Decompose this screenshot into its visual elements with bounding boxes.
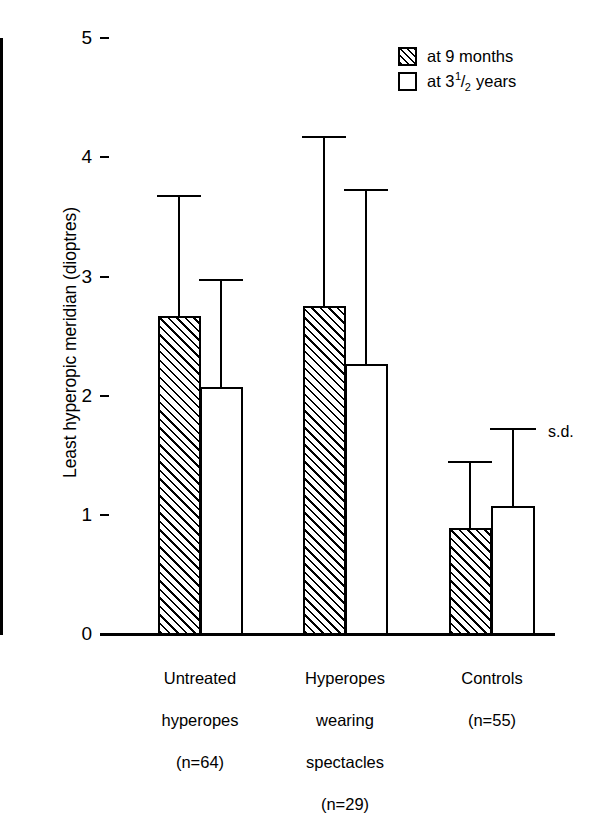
error-bar-stem-spectacles-3half-years [365,189,367,365]
y-tick-label-3: 3 [52,267,92,286]
y-tick-mark-4 [100,156,109,158]
group-label-controls: Controls (n=55) [412,647,572,752]
error-bar-cap-spectacles-9months [302,136,346,138]
sd-annotation-label: s.d. [548,423,574,441]
group-label-line: (n=29) [265,794,425,815]
group-label-line: Controls [412,668,572,689]
group-label-line: Untreated [120,668,280,689]
error-bar-cap-controls-9months [448,461,492,463]
legend-swatch-hatched-icon [398,47,417,66]
bar-spectacles-9months [303,306,346,635]
y-tick-mark-1 [100,514,109,516]
error-bar-stem-untreated-9months [178,195,180,317]
legend: at 9 months at 31/2 years [398,44,516,94]
error-bar-cap-untreated-9months [157,195,201,197]
legend-label-at-3-half-years: at 31/2 years [427,70,516,93]
y-tick-label-1: 1 [52,505,92,524]
error-bar-stem-controls-9months [469,461,471,529]
bar-controls-3half-years [491,506,535,635]
y-tick-label-5: 5 [52,28,92,47]
legend-label-suffix: years [471,72,516,90]
y-tick-mark-5 [100,37,109,39]
error-bar-stem-controls-3half-years [512,428,514,507]
bar-controls-9months [449,528,492,635]
group-label-line: spectacles [265,752,425,773]
bar-untreated-3half-years [200,387,243,635]
group-label-line: (n=55) [412,710,572,731]
y-tick-label-2: 2 [52,386,92,405]
y-axis-line [0,38,3,635]
error-bar-stem-spectacles-9months [323,136,325,307]
group-label-hyperopes-wearing-spectacles: Hyperopes wearing spectacles (n=29) [265,647,425,817]
legend-label-fraction: 1/2 [455,70,472,93]
legend-label-prefix: at 3 [427,72,455,90]
y-tick-label-0: 0 [52,624,92,643]
fraction-denominator: 2 [465,81,471,93]
legend-label-at-9-months: at 9 months [427,47,513,66]
fraction-numerator: 1 [455,70,461,82]
error-bar-cap-controls-3half-years [490,428,536,430]
bar-untreated-9months [158,316,201,635]
error-bar-cap-untreated-3half-years [199,279,243,281]
group-label-line: wearing [265,710,425,731]
error-bar-stem-untreated-3half-years [220,279,222,388]
y-tick-label-4: 4 [52,147,92,166]
legend-swatch-white-icon [398,72,417,91]
group-label-line: hyperopes [120,710,280,731]
group-label-line: Hyperopes [265,668,425,689]
group-label-untreated-hyperopes: Untreated hyperopes (n=64) [120,647,280,794]
y-tick-mark-2 [100,395,109,397]
legend-item-at-9-months: at 9 months [398,44,516,69]
legend-item-at-3-half-years: at 31/2 years [398,69,516,94]
y-axis-title: Least hyperopic meridian (dioptres) [60,133,81,553]
error-bar-cap-spectacles-3half-years [344,189,388,191]
y-tick-mark-3 [100,276,109,278]
bar-spectacles-3half-years [345,364,388,635]
group-label-line: (n=64) [120,752,280,773]
